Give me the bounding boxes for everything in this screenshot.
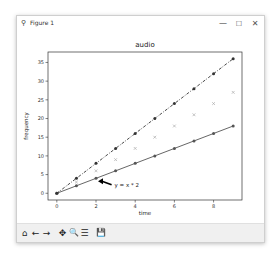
x-tick-label: 2 xyxy=(94,203,97,209)
arrow-left-icon[interactable]: ← xyxy=(30,227,41,239)
data-point xyxy=(95,169,98,172)
data-point xyxy=(192,87,195,90)
data-point xyxy=(192,139,195,142)
y-tick-label: 5 xyxy=(41,171,44,177)
data-point xyxy=(114,147,117,150)
data-point xyxy=(55,192,58,195)
magnifier-icon[interactable]: 🔍 xyxy=(68,227,79,239)
data-point xyxy=(153,136,156,139)
data-point xyxy=(114,158,117,161)
home-icon[interactable]: ⌂ xyxy=(19,227,30,239)
data-point xyxy=(232,91,235,94)
y-axis-label: frequency xyxy=(23,111,30,139)
arrow-right-icon[interactable]: → xyxy=(41,227,52,239)
y-tick-label: 10 xyxy=(38,153,44,159)
annotation-arrow-head xyxy=(98,178,103,184)
move-icon[interactable]: ✥ xyxy=(57,227,68,239)
y-tick-label: 0 xyxy=(41,190,44,196)
y-tick-label: 25 xyxy=(38,97,44,103)
figure-window: ⚲ Figure 1 — ☐ ✕ audio024680510152025303… xyxy=(16,15,265,243)
data-point xyxy=(153,117,156,120)
data-point xyxy=(232,125,235,128)
data-point xyxy=(134,147,137,150)
floppy-icon[interactable]: 💾 xyxy=(95,227,106,239)
data-point xyxy=(75,184,78,187)
navigation-toolbar: ⌂ ← → ✥ 🔍 ☰ 💾 xyxy=(17,223,264,242)
y-tick-label: 20 xyxy=(38,115,44,121)
data-point xyxy=(173,147,176,150)
data-point xyxy=(95,162,98,165)
data-point xyxy=(134,132,137,135)
x-tick-label: 6 xyxy=(173,203,176,209)
x-tick-label: 8 xyxy=(212,203,215,209)
x-tick-label: 4 xyxy=(134,203,137,209)
data-point xyxy=(232,57,235,60)
data-point xyxy=(173,102,176,105)
plot-canvas[interactable]: audio0246805101520253035timefrequencyy =… xyxy=(17,16,264,224)
series-line-0 xyxy=(57,126,233,193)
series-line-2 xyxy=(57,59,233,194)
y-tick-label: 35 xyxy=(38,59,44,65)
data-point xyxy=(75,181,78,184)
x-tick-label: 0 xyxy=(55,203,58,209)
sliders-icon[interactable]: ☰ xyxy=(79,227,90,239)
annotation-arrow-shaft xyxy=(102,181,112,184)
data-point xyxy=(75,177,78,180)
y-tick-label: 15 xyxy=(38,134,44,140)
data-point xyxy=(193,113,196,116)
data-point xyxy=(212,132,215,135)
y-tick-label: 30 xyxy=(38,78,44,84)
data-point xyxy=(212,102,215,105)
data-point xyxy=(95,177,98,180)
data-point xyxy=(212,72,215,75)
data-point xyxy=(134,162,137,165)
annotation-text: y = x * 2 xyxy=(115,182,139,189)
chart-title: audio xyxy=(135,41,154,49)
x-axis-label: time xyxy=(139,210,152,216)
data-point xyxy=(153,154,156,157)
data-point xyxy=(114,169,117,172)
data-point xyxy=(173,125,176,128)
